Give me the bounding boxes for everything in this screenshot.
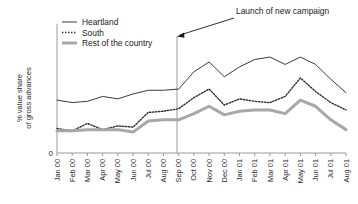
x-axis-tick-label: Sep 00 [174, 159, 183, 182]
y-axis-title-line2: of gross advances [24, 67, 33, 129]
campaign-annotation-arrow [177, 18, 234, 38]
x-axis-tick-labels: Jan 00Feb 00Mar 00Apr 00May 00Jun 00Jul … [53, 159, 351, 183]
legend-label-heartland: Heartland [82, 17, 119, 27]
x-axis-tick-label: Feb 01 [250, 159, 259, 182]
x-axis-tick-label: Aug 00 [159, 159, 168, 182]
x-axis-tick-label: Jan 00 [53, 159, 62, 181]
series-layer [57, 57, 346, 132]
x-axis-tick-label: Feb 00 [68, 159, 77, 182]
x-axis-tick-label: Jun 00 [129, 159, 138, 181]
x-axis-tick-label: Dec 00 [220, 159, 229, 182]
campaign-annotation-label: Launch of new campaign [236, 6, 329, 16]
x-axis-tick-label: Aug 01 [342, 159, 351, 182]
x-axis-tick-label: Oct 00 [189, 159, 198, 181]
x-axis-tick-label: May 01 [296, 159, 305, 183]
x-axis-tick-label: Jul 00 [144, 159, 153, 179]
y-axis-zero-label: 0 [49, 149, 54, 158]
x-axis-tick-label: Apr 00 [98, 159, 107, 181]
x-axis-tick-label: Mar 00 [83, 159, 92, 182]
line-chart: 0 % value share of gross advances Jan 00… [0, 0, 358, 204]
chart-root: 0 % value share of gross advances Jan 00… [0, 0, 358, 204]
x-axis-tick-label: May 00 [113, 159, 122, 183]
series-line-south [57, 78, 346, 131]
series-line-rest-of-the-country [57, 100, 346, 132]
x-axis-tick-label: Nov 00 [205, 159, 214, 182]
legend-label-south: South [82, 28, 104, 38]
x-axis-tick-label: Jun 01 [311, 159, 320, 181]
x-axis-tick-label: Jul 01 [326, 159, 335, 179]
y-axis-title-line1: % value share [15, 74, 24, 122]
legend-label-rest-of-the-country: Rest of the country [82, 38, 153, 48]
chart-legend: HeartlandSouthRest of the country [62, 17, 153, 48]
y-axis-title: % value share of gross advances [15, 67, 33, 129]
x-axis-tick-label: Jan 01 [235, 159, 244, 181]
x-axis-tick-label: Apr 01 [281, 159, 290, 181]
x-axis-tick-label: Mar 01 [266, 159, 275, 182]
